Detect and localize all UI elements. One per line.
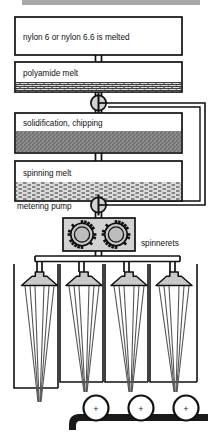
bobbin: +: [174, 396, 199, 421]
solidification-chips-fill: [16, 131, 181, 152]
bobbin: +: [84, 396, 109, 421]
process-flow-diagram: nylon 6 or nylon 6.6 is melted polyamide…: [0, 0, 212, 438]
box-solidification: solidification, chipping: [15, 113, 182, 153]
metering-pump-label: metering pump: [17, 202, 72, 211]
gear-pump: [62, 214, 137, 255]
box-spinning-melt-label: spinning melt: [23, 169, 72, 178]
bobbin-center-marker: +: [139, 405, 144, 414]
box-polyamide-melt: polyamide melt: [15, 62, 182, 92]
page-header-bar: [22, 0, 200, 5]
box-polyamide-melt-label: polyamide melt: [23, 69, 79, 78]
bobbin-center-marker: +: [184, 405, 189, 414]
bobbin: +: [129, 396, 154, 421]
box-melter-label: nylon 6 or nylon 6.6 is melted: [23, 33, 130, 42]
box-solidification-label: solidification, chipping: [23, 119, 103, 128]
box-melter: nylon 6 or nylon 6.6 is melted: [15, 17, 182, 55]
polyamide-melt-fill: [16, 82, 181, 91]
bobbin-row: + + +: [84, 396, 199, 421]
spinnerets-label: spinnerets: [141, 239, 179, 248]
bobbin-center-marker: +: [94, 405, 99, 414]
diagram-canvas: nylon 6 or nylon 6.6 is melted polyamide…: [0, 0, 212, 438]
